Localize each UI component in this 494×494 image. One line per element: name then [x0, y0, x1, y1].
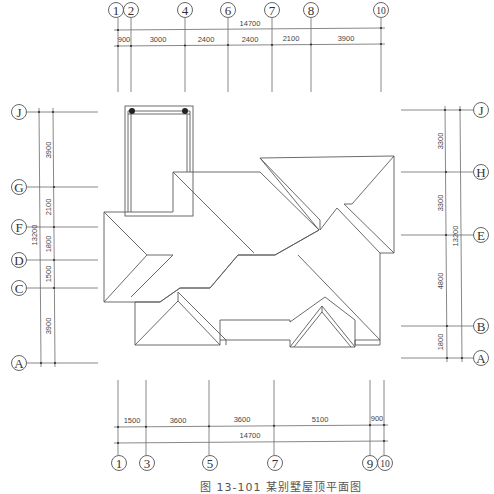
right-axis-grid: 3300 3300 4800 1800 13200 J H E B A	[401, 103, 489, 367]
left-dim-seg-3: 1800	[44, 236, 53, 253]
top-dim-seg-5: 2100	[283, 34, 300, 43]
svg-text:A: A	[14, 356, 24, 371]
svg-text:3: 3	[144, 456, 151, 471]
axis-bubble-bottom-7: 7	[268, 456, 283, 472]
bottom-axis-grid: 1500 3600 3600 5100 900 14700 1 3 5 7 9 …	[112, 380, 393, 471]
svg-text:D: D	[14, 253, 23, 268]
left-dim-seg-2: 2100	[44, 199, 53, 216]
top-dim-seg-6: 3900	[338, 34, 355, 43]
bottom-dim-seg-2: 3600	[170, 416, 187, 425]
left-axis-grid: 13200 3900 2100 1800 1500 3900 J G F D C…	[12, 105, 99, 372]
top-dim-seg-2: 3000	[150, 35, 167, 44]
axis-bubble-left-A: A	[12, 356, 27, 372]
svg-text:2: 2	[128, 3, 135, 18]
svg-text:5: 5	[207, 456, 214, 471]
axis-bubble-top-2: 2	[124, 3, 139, 19]
bottom-dim-seg-5: 900	[371, 414, 384, 423]
svg-text:1: 1	[113, 3, 120, 18]
axis-bubble-left-C: C	[12, 281, 27, 297]
right-dim-seg-3: 4800	[436, 273, 445, 290]
left-dim-seg-4: 1500	[44, 266, 53, 283]
axis-bubble-left-D: D	[12, 253, 27, 269]
top-axis-grid: 14700 900 3000 2400 2400 2100 3900 1 2 4…	[109, 3, 389, 93]
svg-text:6: 6	[225, 3, 232, 18]
right-dim-seg-4: 1800	[436, 334, 445, 351]
column-icon	[182, 108, 188, 114]
axis-bubble-top-1: 1	[109, 3, 124, 19]
axis-bubble-bottom-5: 5	[203, 456, 218, 472]
axis-bubble-top-10: 10	[374, 3, 389, 18]
svg-text:8: 8	[308, 3, 315, 18]
top-total-dim-line	[114, 28, 385, 30]
svg-text:F: F	[15, 220, 22, 235]
left-dim-seg-5: 3900	[44, 318, 53, 335]
axis-bubble-top-7: 7	[265, 3, 280, 19]
pergola-frame	[125, 106, 193, 216]
svg-text:J: J	[16, 105, 21, 120]
right-total-dim: 13200	[451, 226, 460, 247]
axis-bubble-right-H: H	[474, 165, 489, 181]
bottom-segment-dim-line	[114, 425, 388, 427]
right-dim-seg-2: 3300	[436, 195, 445, 212]
svg-text:J: J	[478, 103, 483, 118]
right-dim-seg-1: 3300	[436, 133, 445, 150]
axis-bubble-bottom-10: 10	[378, 456, 393, 471]
axis-bubble-bottom-9: 9	[363, 456, 378, 472]
axis-bubble-bottom-3: 3	[140, 456, 155, 472]
svg-text:7: 7	[272, 456, 279, 471]
svg-text:9: 9	[367, 456, 374, 471]
bottom-dim-seg-1: 1500	[124, 416, 141, 425]
bottom-total-dim: 14700	[240, 431, 261, 440]
axis-bubble-top-8: 8	[304, 3, 319, 19]
bottom-dim-seg-3: 3600	[234, 415, 251, 424]
svg-text:10: 10	[380, 459, 390, 469]
svg-text:7: 7	[269, 3, 276, 18]
figure-caption: 图 13-101 某别墅屋顶平面图	[200, 478, 362, 494]
axis-bubble-left-F: F	[12, 220, 27, 236]
axis-bubble-top-6: 6	[221, 3, 236, 19]
top-segment-dim-line	[114, 44, 385, 46]
svg-text:4: 4	[182, 3, 189, 18]
top-total-dim: 14700	[240, 19, 261, 28]
svg-text:H: H	[476, 165, 485, 180]
axis-bubble-left-G: G	[12, 180, 27, 196]
svg-text:B: B	[477, 319, 486, 334]
svg-text:G: G	[14, 180, 23, 195]
left-total-dim-line	[39, 108, 41, 367]
bottom-dim-seg-4: 5100	[312, 415, 329, 424]
roof-plan	[104, 106, 394, 347]
axis-bubble-right-J: J	[474, 103, 489, 119]
top-dim-seg-3: 2400	[198, 35, 215, 44]
axis-bubble-bottom-1: 1	[112, 456, 127, 472]
axis-bubble-left-J: J	[12, 105, 27, 121]
column-icon	[129, 108, 135, 114]
svg-text:E: E	[477, 228, 485, 243]
axis-bubble-right-B: B	[474, 319, 489, 335]
axis-bubble-top-4: 4	[178, 3, 193, 19]
svg-text:10: 10	[376, 6, 386, 16]
bottom-total-dim-line	[114, 441, 388, 443]
top-dim-seg-4: 2400	[242, 35, 259, 44]
svg-text:1: 1	[116, 456, 123, 471]
left-total-dim: 13200	[30, 225, 39, 246]
axis-bubble-right-A: A	[474, 351, 489, 367]
top-dim-seg-1: 900	[118, 35, 131, 44]
svg-text:A: A	[476, 351, 486, 366]
axis-bubble-right-E: E	[474, 228, 489, 244]
right-total-dim-line	[460, 106, 462, 362]
svg-text:C: C	[15, 281, 24, 296]
left-segment-dim-line	[53, 108, 55, 367]
left-dim-seg-1: 3900	[44, 142, 53, 159]
dormer-gable	[220, 306, 380, 347]
